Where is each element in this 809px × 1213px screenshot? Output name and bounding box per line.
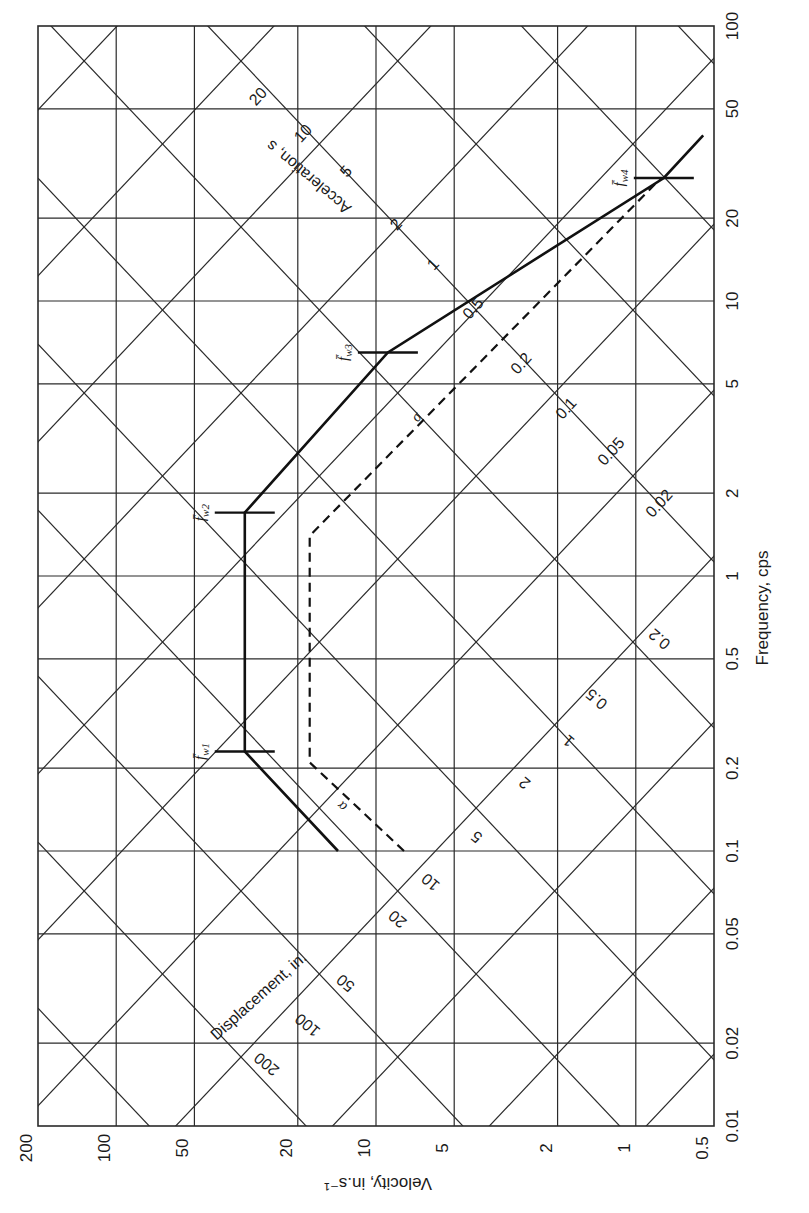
- acceleration-scale-label: 5: [337, 162, 356, 180]
- frequency-tick-label: 0.01: [723, 1109, 742, 1142]
- frequency-axis-title: Frequency, cps: [753, 551, 772, 666]
- grid-lines: [38, 26, 714, 1126]
- acceleration-gridline: [0, 802, 809, 1213]
- acceleration-gridline: [0, 304, 809, 1160]
- acceleration-scale-label: 0.1: [552, 394, 580, 422]
- frequency-tick-label: 20: [723, 209, 742, 228]
- frequency-markers: f̄w1f̄w2f̄w3f̄w4: [192, 169, 694, 760]
- velocity-axis-title: Velocity, in.s⁻¹: [324, 1174, 432, 1193]
- tripartite-chart: f̄w1f̄w2f̄w3f̄w4 1005020105210.50.20.10.…: [0, 0, 809, 1213]
- displacement-gridline: [0, 0, 809, 814]
- velocity-tick-label: 200: [17, 1134, 36, 1162]
- alpha-annotation: α: [333, 797, 350, 815]
- displacement-scale-label: 0.5: [582, 685, 610, 712]
- displacement-gridline: [0, 0, 809, 648]
- marker-label-fw3: f̄w3: [335, 343, 354, 361]
- acceleration-gridline: [0, 0, 809, 164]
- displacement-gridline: [0, 290, 809, 1146]
- displacement-scale-label: 5: [468, 828, 486, 847]
- displacement-scale-label: 0.2: [645, 625, 673, 652]
- diagonal-scale-labels: 20105210.50.20.10.050.020.20.51251020501…: [246, 84, 676, 1079]
- displacement-scale-label: 2: [516, 774, 534, 793]
- acceleration-scale-label: 10: [291, 121, 316, 146]
- marker-label-fw4: f̄w4: [611, 169, 630, 187]
- diagonal-grid-lines: [0, 0, 809, 1213]
- acceleration-gridline: [0, 0, 809, 496]
- acceleration-gridline: [0, 470, 809, 1213]
- acceleration-gridline: [0, 138, 809, 994]
- acceleration-scale-label: 0.5: [459, 294, 487, 322]
- sigma-dashed-curve: [310, 178, 661, 851]
- frequency-tick-label: 5: [723, 379, 742, 388]
- frequency-tick-label: 2: [723, 488, 742, 497]
- velocity-tick-label: 1: [615, 1143, 634, 1152]
- velocity-tick-label: 100: [95, 1134, 114, 1162]
- displacement-scale-label: 200: [251, 1049, 282, 1079]
- velocity-tick-label: 10: [355, 1139, 374, 1158]
- velocity-tick-label: 50: [173, 1139, 192, 1158]
- acceleration-scale-label: 0.05: [594, 434, 628, 469]
- frequency-tick-label: 1: [723, 571, 742, 580]
- displacement-scale-label: 100: [292, 1010, 323, 1040]
- frequency-tick-label: 50: [723, 99, 742, 118]
- acceleration-gridline: [0, 0, 809, 662]
- displacement-gridline: [0, 0, 809, 316]
- frequency-tick-label: 0.2: [723, 756, 742, 780]
- acceleration-gridline: [0, 1134, 809, 1213]
- displacement-scale-label: 20: [385, 907, 410, 932]
- acceleration-gridline: [0, 0, 809, 828]
- displacement-gridline: [0, 0, 809, 150]
- frequency-tick-label: 10: [723, 292, 742, 311]
- frequency-tick-label: 0.1: [723, 839, 742, 863]
- velocity-tick-label: 2: [537, 1143, 556, 1152]
- frequency-tick-label: 0.05: [723, 917, 742, 950]
- displacement-gridline: [0, 0, 809, 482]
- velocity-tick-label: 5: [433, 1143, 452, 1152]
- acceleration-scale-label: 0.2: [507, 349, 535, 377]
- frequency-tick-label: 100: [723, 12, 742, 40]
- velocity-tick-label: 0.5: [693, 1136, 712, 1160]
- displacement-gridline: [0, 456, 809, 1213]
- displacement-gridline: [0, 1120, 809, 1213]
- frequency-tick-label: 0.5: [723, 647, 742, 671]
- displacement-scale-label: 10: [418, 870, 443, 895]
- acceleration-axis-title: Acceleration, s: [263, 137, 354, 217]
- frequency-tick-label: 0.02: [723, 1027, 742, 1060]
- displacement-axis-title: Displacement, in.: [207, 949, 310, 1044]
- displacement-scale-label: 1: [560, 732, 578, 751]
- velocity-tick-label: 20: [277, 1139, 296, 1158]
- acceleration-gridline: [0, 0, 809, 330]
- axis-tick-labels: 1005020105210.50.20.10.050.020.012001005…: [17, 12, 742, 1162]
